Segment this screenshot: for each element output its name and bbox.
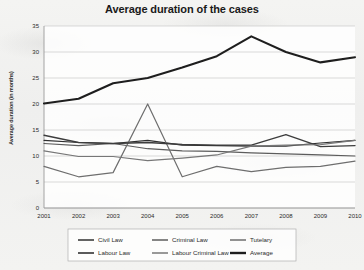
x-tick-label: 2006: [210, 213, 224, 219]
x-tick-label: 2008: [279, 213, 293, 219]
legend-label: Criminal Law: [172, 236, 208, 243]
plot-background: [44, 26, 355, 208]
x-tick-label: 2005: [176, 213, 190, 219]
y-tick-label: 5: [36, 179, 40, 185]
legend-label: Civil Law: [98, 236, 123, 243]
x-tick-label: 2009: [314, 213, 328, 219]
line-chart: Average duration of the cases Average du…: [0, 0, 364, 270]
y-tick-label: 30: [32, 49, 39, 55]
y-tick-label: 20: [32, 101, 39, 107]
x-tick-label: 2003: [106, 213, 120, 219]
y-tick-label: 0: [36, 205, 40, 211]
y-tick-label: 25: [32, 75, 39, 81]
chart-canvas: 05101520253035 2001200220032004200520062…: [0, 0, 364, 270]
legend-label: Average: [250, 249, 273, 256]
legend-label: Tutelary: [250, 236, 273, 243]
y-tick-label: 10: [32, 153, 39, 159]
x-tick-label: 2007: [245, 213, 259, 219]
legend-label: Labour Law: [98, 249, 131, 256]
x-tick-label: 2010: [348, 213, 362, 219]
x-tick-label: 2002: [72, 213, 86, 219]
legend-label: Labour Criminal Law: [172, 249, 229, 256]
y-tick-label: 35: [32, 23, 39, 29]
x-axis-ticks: 2001200220032004200520062007200820092010: [37, 213, 362, 219]
y-tick-label: 15: [32, 127, 39, 133]
x-tick-label: 2004: [141, 213, 155, 219]
y-axis-ticks: 05101520253035: [32, 23, 39, 211]
x-tick-label: 2001: [37, 213, 51, 219]
chart-legend: Civil LawCriminal LawTutelaryLabour LawL…: [68, 229, 296, 261]
